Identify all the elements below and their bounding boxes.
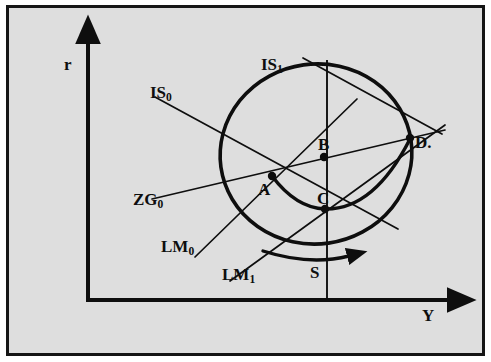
zg0-line bbox=[152, 130, 445, 199]
curve-label-is0-base: IS bbox=[150, 83, 166, 102]
curve-label-lm0-base: LM bbox=[161, 237, 188, 256]
point-dot-a bbox=[268, 172, 276, 180]
point-dot-d bbox=[406, 134, 414, 142]
curve-label-is1-sub: 1 bbox=[277, 63, 283, 76]
annotation-label-s: S bbox=[310, 264, 319, 281]
curve-label-zg0: ZG0 bbox=[133, 191, 163, 208]
diagram-canvas bbox=[0, 0, 491, 362]
schedule-lines-group bbox=[152, 58, 445, 281]
curve-label-is1-base: IS bbox=[261, 55, 277, 74]
curve-label-lm0-sub: 0 bbox=[188, 245, 194, 258]
x-axis-label: Y bbox=[422, 307, 434, 324]
curve-label-is0-sub: 0 bbox=[166, 91, 172, 104]
motion-direction-arrow bbox=[263, 251, 349, 260]
is0-line bbox=[155, 97, 398, 229]
point-label-c: C bbox=[317, 190, 329, 207]
lm0-line bbox=[195, 99, 357, 257]
point-label-a: A bbox=[258, 181, 270, 198]
curve-label-lm1: LM1 bbox=[222, 266, 255, 283]
curve-label-lm0: LM0 bbox=[161, 238, 194, 255]
curve-label-lm1-sub: 1 bbox=[249, 273, 255, 286]
y-axis-label: r bbox=[64, 56, 72, 73]
curve-label-lm1-base: LM bbox=[222, 265, 249, 284]
point-dot-b bbox=[320, 153, 328, 161]
point-label-b: B bbox=[318, 136, 329, 153]
curve-label-zg0-base: ZG bbox=[133, 190, 158, 209]
axes-group bbox=[86, 40, 451, 300]
is1-line bbox=[303, 58, 442, 134]
point-label-d: D. bbox=[415, 134, 432, 151]
curve-label-zg0-sub: 0 bbox=[158, 198, 164, 211]
curve-label-is0: IS0 bbox=[150, 84, 172, 101]
figure-root: r Y IS0 IS1 ZG0 LM0 LM1 A B C D. S bbox=[0, 0, 491, 362]
curve-label-is1: IS1 bbox=[261, 56, 283, 73]
